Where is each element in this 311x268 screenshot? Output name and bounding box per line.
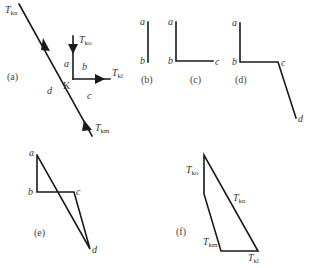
panel-e: a b c d (e) — [28, 147, 98, 255]
caption-e: (e) — [34, 227, 45, 239]
space-a: a — [64, 58, 69, 69]
point-c: c — [281, 57, 286, 68]
arrow-kl-icon — [95, 74, 105, 84]
panel-c: a b c (c) — [168, 16, 220, 86]
label-tkl: Tkl — [248, 252, 259, 265]
point-d: d — [92, 244, 98, 255]
point-c: c — [215, 56, 220, 67]
point-b: b — [168, 55, 173, 66]
point-b: b — [140, 55, 145, 66]
point-a: a — [232, 17, 237, 28]
point-b: b — [28, 186, 33, 197]
point-b: b — [232, 56, 237, 67]
space-b: b — [82, 61, 87, 72]
caption-f: (f) — [176, 226, 186, 238]
label-tkm: Tkm — [203, 236, 218, 249]
panel-d: a b c d (d) — [232, 17, 304, 124]
panel-a: Tkn Tko Tkl Tkm a b c d K (a) — [5, 4, 123, 136]
point-a: a — [29, 147, 34, 158]
label-tkl: Tkl — [112, 67, 123, 80]
arrow-ko-icon — [68, 44, 78, 54]
label-tkm: Tkm — [95, 122, 110, 135]
point-a: a — [140, 16, 145, 27]
point-d: d — [298, 113, 304, 124]
point-c: c — [76, 186, 81, 197]
panel-f: Tko Tkn Tkm Tkl (f) — [176, 155, 259, 265]
label-tkn: Tkn — [233, 192, 246, 205]
panel-b: a b (b) — [140, 16, 153, 86]
space-d: d — [47, 85, 53, 96]
polyline-abcd — [240, 23, 296, 118]
label-tkn: Tkn — [5, 4, 18, 17]
force-polygon-diagram: Tkn Tko Tkl Tkm a b c d K (a) a b (b) a … — [0, 0, 311, 268]
space-c: c — [87, 90, 92, 101]
caption-b: (b) — [141, 74, 153, 86]
label-tko: Tko — [79, 34, 92, 47]
caption-d: (d) — [235, 74, 247, 86]
force-polygon — [204, 155, 258, 251]
arrow-kn-icon — [41, 38, 50, 51]
point-a: a — [168, 16, 173, 27]
label-tko: Tko — [186, 164, 199, 177]
caption-a: (a) — [7, 71, 18, 83]
caption-c: (c) — [190, 74, 201, 86]
polyline-abc — [176, 22, 213, 61]
node-k: K — [63, 80, 71, 91]
